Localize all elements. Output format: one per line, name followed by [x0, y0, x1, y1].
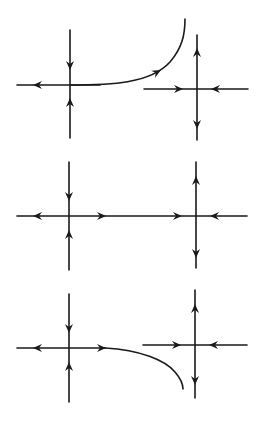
phase-portrait-diagram [0, 0, 263, 425]
right-saddle-bottom [143, 290, 247, 398]
panel-bottom [17, 290, 247, 402]
left-saddle-top [17, 30, 100, 138]
left-saddle-bottom [17, 294, 106, 402]
right-saddle-middle [192, 162, 219, 268]
arrow-curve-icon [151, 66, 163, 77]
right-saddle-top [144, 35, 248, 140]
unstable-manifold-curve-up [70, 19, 185, 85]
unstable-manifold-curve-down [105, 348, 183, 389]
panel-middle [17, 162, 247, 270]
panel-top [17, 19, 248, 140]
